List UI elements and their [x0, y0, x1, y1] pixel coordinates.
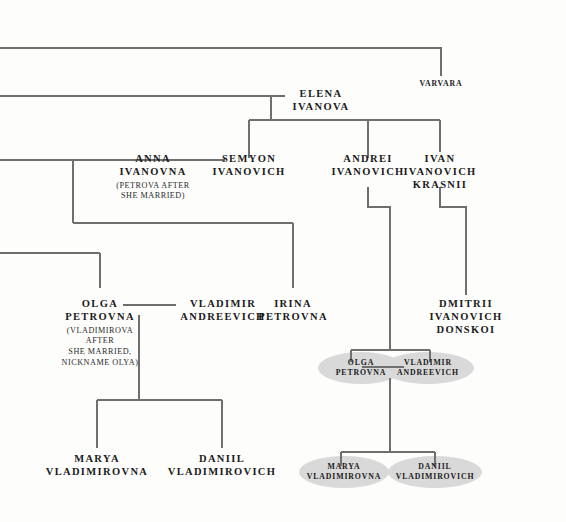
- node-dmitrii-ivanovich-donskoi[interactable]: DMITRII IVANOVICH DONSKOI: [413, 298, 519, 336]
- line-ivan-to-dmitrii: [440, 187, 466, 295]
- node-olga-petrovna[interactable]: OLGA PETROVNA (VLADIMIROVAAFTERSHE MARRI…: [49, 298, 151, 368]
- node-elena-ivanova[interactable]: ELENA IVANOVA: [266, 88, 376, 114]
- node-vladimir-hl-line1: VLADIMIR: [382, 358, 474, 368]
- node-marya-hl-line2: VLADIMIROVNA: [299, 472, 389, 482]
- node-semyon-ivanovich[interactable]: SEMYON IVANOVICH: [196, 153, 302, 179]
- node-irina-petrovna[interactable]: IRINA PETROVNA: [243, 298, 343, 324]
- node-varvara[interactable]: VARVARA: [396, 79, 486, 89]
- node-daniil-vladimirovich[interactable]: DANIIL VLADIMIROVICH: [162, 453, 282, 479]
- node-semyon-line2: IVANOVICH: [196, 166, 302, 179]
- node-ivan-line3: KRASNII: [387, 179, 493, 192]
- node-anna-line1: ANNA: [93, 153, 213, 166]
- genealogy-diagram: VARVARA ELENA IVANOVA ANNA IVANOVNA (PET…: [0, 0, 566, 522]
- node-anna-note: (PETROVA AFTERSHE MARRIED): [93, 181, 213, 202]
- node-semyon-line1: SEMYON: [196, 153, 302, 166]
- node-olga-line2: PETROVNA: [49, 311, 151, 324]
- node-ivan-line1: IVAN: [387, 153, 493, 166]
- node-ivan-line2: IVANOVICH: [387, 166, 493, 179]
- node-dmitrii-line1: DMITRII: [413, 298, 519, 311]
- node-dmitrii-line3: DONSKOI: [413, 324, 519, 337]
- node-daniil-line1: DANIIL: [162, 453, 282, 466]
- node-marya-line2: VLADIMIROVNA: [40, 466, 154, 479]
- node-varvara-name: VARVARA: [396, 79, 486, 89]
- node-marya-line1: MARYA: [40, 453, 154, 466]
- node-marya-vladimirovna[interactable]: MARYA VLADIMIROVNA: [40, 453, 154, 479]
- node-anna-ivanovna[interactable]: ANNA IVANOVNA (PETROVA AFTERSHE MARRIED): [93, 153, 213, 202]
- line-varvara: [0, 48, 441, 76]
- node-vladimir-hl-line2: ANDREEVICH: [382, 368, 474, 378]
- node-ivan-ivanovich-krasnii[interactable]: IVAN IVANOVICH KRASNII: [387, 153, 493, 191]
- node-irina-line2: PETROVNA: [243, 311, 343, 324]
- node-irina-line1: IRINA: [243, 298, 343, 311]
- node-dmitrii-line2: IVANOVICH: [413, 311, 519, 324]
- node-marya-hl-line1: MARYA: [299, 462, 389, 472]
- line-andrei-to-vladimir: [368, 187, 390, 350]
- node-vladimir-andreevich-highlighted[interactable]: VLADIMIR ANDREEVICH: [382, 358, 474, 377]
- node-daniil-vladimirovich-highlighted[interactable]: DANIIL VLADIMIROVICH: [388, 462, 482, 481]
- node-daniil-hl-line1: DANIIL: [388, 462, 482, 472]
- node-daniil-line2: VLADIMIROVICH: [162, 466, 282, 479]
- node-olga-line1: OLGA: [49, 298, 151, 311]
- node-marya-vladimirovna-highlighted[interactable]: MARYA VLADIMIROVNA: [299, 462, 389, 481]
- node-elena-line1: ELENA: [266, 88, 376, 101]
- node-olga-note: (VLADIMIROVAAFTERSHE MARRIED,NICKNAME OL…: [49, 326, 151, 369]
- node-elena-line2: IVANOVA: [266, 101, 376, 114]
- node-daniil-hl-line2: VLADIMIROVICH: [388, 472, 482, 482]
- node-anna-line2: IVANOVNA: [93, 166, 213, 179]
